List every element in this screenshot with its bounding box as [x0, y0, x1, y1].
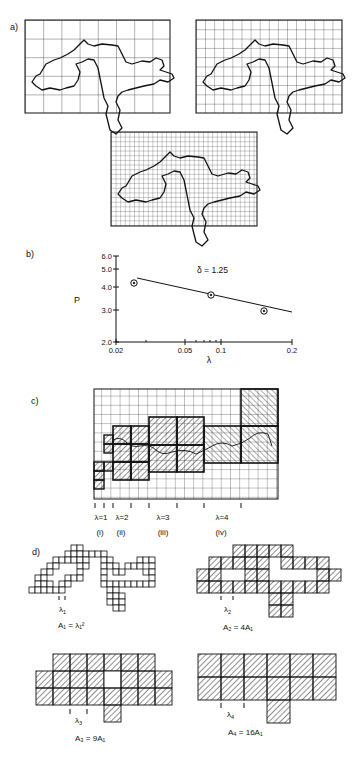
x-tick-002: 0.02 — [109, 346, 124, 355]
scale-label-3: λ=3 — [156, 513, 170, 522]
panel-c: λ=1 λ=2 λ=3 λ=4 (i) (ii) (iii) (iv) — [94, 389, 278, 537]
area-formula-2: A₂ = 4A₁ — [223, 623, 253, 632]
panel-b-chart: 2.0 3.0 4.0 5.0 6.0 0.02 0.05 0.1 0.2 λ … — [74, 252, 297, 365]
covering-lambda-2 — [197, 545, 341, 617]
panel-d: λ1 A₁ = λ₁² λ2 A₂ = 4A₁ λ3 A₃ = 9A₁ — [29, 545, 341, 743]
y-tick-4: 4.0 — [102, 283, 112, 292]
covering-lambda-3 — [36, 654, 172, 722]
scale-label-2: λ=2 — [115, 513, 129, 522]
delta-annotation: δ = 1.25 — [197, 265, 228, 275]
y-tick-labels: 2.0 3.0 4.0 5.0 6.0 — [102, 252, 112, 347]
lambda-3-symbol: λ3 — [75, 716, 82, 726]
x-tick-labels: 0.02 0.05 0.1 0.2 — [109, 346, 298, 355]
area-formula-1: A₁ = λ₁² — [58, 621, 85, 630]
roman-label-2: (ii) — [117, 528, 126, 537]
scale-label-4: λ=4 — [215, 513, 229, 522]
x-axis-label: λ — [207, 355, 212, 365]
data-points — [131, 280, 267, 314]
lambda-1-symbol: λ1 — [59, 605, 66, 615]
area-formula-3: A₃ = 9A₁ — [75, 734, 105, 743]
covering-lambda-1 — [29, 545, 155, 611]
x-tick-005: 0.05 — [178, 346, 193, 355]
y-tick-3: 3.0 — [102, 306, 112, 315]
y-axis-label: P — [74, 295, 80, 305]
covering-lambda-4 — [198, 654, 336, 723]
data-point — [208, 292, 214, 298]
y-tick-5: 5.0 — [102, 265, 112, 274]
scale-label-1: λ=1 — [94, 513, 108, 522]
lambda-2-symbol: λ2 — [224, 605, 231, 615]
x-tick-01: 0.1 — [216, 346, 226, 355]
x-tick-02: 0.2 — [287, 346, 297, 355]
y-tick-6: 6.0 — [102, 252, 112, 261]
roman-label-4: (iv) — [215, 528, 226, 537]
grid-coarse — [25, 20, 174, 134]
roman-label-3: (iii) — [158, 528, 169, 537]
panel-a — [25, 20, 345, 246]
grid-fine — [111, 132, 260, 246]
area-formula-4: A₄ = 16A₁ — [228, 728, 263, 737]
lambda-4-symbol: λ4 — [227, 710, 234, 720]
figure-canvas: 2.0 3.0 4.0 5.0 6.0 0.02 0.05 0.1 0.2 λ … — [0, 0, 356, 769]
scale-ticks — [95, 503, 241, 508]
data-point — [131, 280, 137, 286]
data-point — [261, 308, 267, 314]
roman-label-1: (i) — [96, 528, 103, 537]
grid-medium — [196, 20, 345, 134]
